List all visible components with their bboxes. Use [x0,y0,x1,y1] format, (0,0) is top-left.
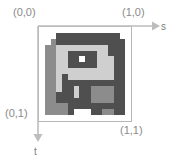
texture-texel [102,51,108,57]
texture-texel [97,98,103,104]
texture-texel [74,92,80,98]
texture-texel [102,56,108,62]
texture-texel [120,103,126,109]
texture-texel [74,98,80,104]
texture-texel [85,62,91,68]
texture-texel [91,80,97,86]
texture-texel [79,86,85,92]
texture-texel [91,39,97,45]
texture-texel [79,98,85,104]
texture-texel [51,45,57,51]
texture-texel [79,45,85,51]
texture-texel [85,86,91,92]
texture-texel [79,62,85,68]
texture-texel [62,56,68,62]
texture-texel [114,62,120,68]
texture-texel [45,51,51,57]
texture-texel [45,109,51,115]
texture-texel [45,62,51,68]
texture-texel [97,39,103,45]
texture-texel [108,39,114,45]
texture-texel [68,45,74,51]
texture-texel [56,103,62,109]
texture-texel [51,74,57,80]
texture-texel [97,86,103,92]
texture-texel [120,45,126,51]
texture-texel [102,86,108,92]
texture-texel [97,109,103,115]
texture-texel [68,33,74,39]
texture-texel [102,98,108,104]
texture-texel [102,80,108,86]
texture-texel [51,68,57,74]
texture-texel [97,103,103,109]
texture-texel [114,68,120,74]
texture-texel [74,56,80,62]
texture-texel [85,51,91,57]
texture-texel [108,103,114,109]
texture-texel [120,98,126,104]
texture-texel [56,68,62,74]
texture-texel [62,80,68,86]
texture-texel [56,39,62,45]
texture-texel [74,103,80,109]
texture-texel [62,98,68,104]
texture-texel [108,74,114,80]
texture-texel [102,45,108,51]
texture-texel [108,68,114,74]
texture-texel [114,39,120,45]
texture-texel [85,45,91,51]
texture-texel [91,51,97,57]
texture-texel [62,103,68,109]
texture-texel [108,86,114,92]
texture-texel [102,39,108,45]
corner-label-top-right: (1,0) [122,7,145,18]
texture-texel [120,109,126,115]
texture-texel [120,62,126,68]
texture-texel [74,51,80,57]
texture-texel [114,56,120,62]
texture-texel [120,74,126,80]
texture-texel [91,86,97,92]
texture-texel [62,68,68,74]
texture-texel [74,80,80,86]
texture-texel [102,33,108,39]
texture-image [39,27,131,121]
texture-texel [68,103,74,109]
corner-label-top-left: (0,0) [13,7,36,18]
texture-texel [51,86,57,92]
texture-texel [56,62,62,68]
texture-texel [79,39,85,45]
texture-texel [62,33,68,39]
texture-texel [108,92,114,98]
texture-texel [51,80,57,86]
texture-texel [45,74,51,80]
texture-texel [97,92,103,98]
texture-texel [97,62,103,68]
texture-texel [97,74,103,80]
texture-texel [51,62,57,68]
texture-texel [79,74,85,80]
texture-texel [56,86,62,92]
texture-texel [51,103,57,109]
texture-texel [102,74,108,80]
texture-texel [97,68,103,74]
texture-texel [114,80,120,86]
texture-texel [108,33,114,39]
texture-texel [45,98,51,104]
s-axis-label: s [161,22,166,32]
texture-texel [91,33,97,39]
texture-texel [51,39,57,45]
texture-texel [102,62,108,68]
texture-texel [68,74,74,80]
texture-texel [56,56,62,62]
texture-texel [51,109,57,115]
texture-texel [108,45,114,51]
texture-texel [74,86,80,92]
texture-texel [62,86,68,92]
texture-texel [56,98,62,104]
texture-texel [79,92,85,98]
texture-texel [56,92,62,98]
texture-texel [45,80,51,86]
texture-texel [108,109,114,115]
